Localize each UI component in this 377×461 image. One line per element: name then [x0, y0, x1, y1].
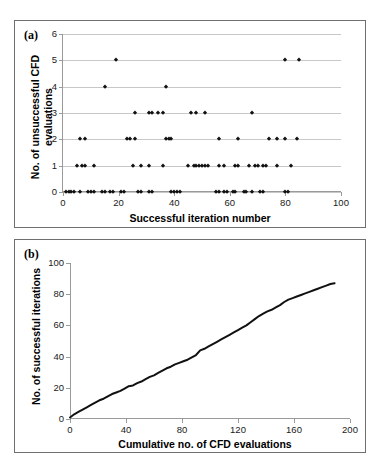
panel-a-x-tick-label: 100: [326, 197, 356, 208]
panel-a-x-tick: [341, 192, 342, 196]
scatter-point: [163, 84, 168, 89]
panel-a-x-tick-label: 80: [270, 197, 300, 208]
scatter-point: [102, 84, 107, 89]
scatter-point: [222, 163, 227, 168]
panel-b-x-tick: [238, 419, 239, 423]
panel-b-y-axis-title: No. of successful iterations: [30, 257, 43, 417]
panel-b-x-tick: [70, 419, 71, 423]
panel-b-x-axis-title: Cumulative no. of CFD evaluations: [55, 438, 355, 450]
panel-b-y-tick: [66, 294, 70, 295]
panel-b-x-tick-label: 40: [111, 424, 141, 435]
scatter-point: [283, 58, 288, 63]
panel-b-y-tick-label: 40: [44, 351, 64, 362]
scatter-point: [77, 137, 82, 142]
panel-b-y-tick-label: 20: [44, 382, 64, 393]
scatter-point: [283, 137, 288, 142]
panel-a-y-tick: [59, 166, 63, 167]
panel-a-y-tick-label: 6: [41, 28, 57, 39]
panel-a-y-tick: [59, 113, 63, 114]
panel-a-y-tick: [59, 87, 63, 88]
panel-b-x-tick: [294, 419, 295, 423]
panel-b-y-tick: [66, 325, 70, 326]
figure-container: (a) No. of unsuccessful CFD evaluations …: [0, 0, 377, 461]
scatter-point: [216, 137, 221, 142]
panel-b-x-tick: [182, 419, 183, 423]
scatter-point: [236, 163, 241, 168]
scatter-point: [133, 137, 138, 142]
gridline-y: [63, 34, 341, 35]
scatter-point: [150, 111, 155, 116]
panel-a-y-tick-label: 3: [41, 107, 57, 118]
scatter-point: [194, 111, 199, 116]
panel-a-x-axis-title: Successful iteration number: [60, 212, 340, 224]
scatter-point: [147, 163, 152, 168]
panel-b-y-tick: [66, 388, 70, 389]
scatter-point: [275, 163, 280, 168]
panel-a-x-tick-label: 20: [104, 197, 134, 208]
panel-a-y-tick: [59, 34, 63, 35]
panel-b-x-tick: [350, 419, 351, 423]
panel-b-x-tick-label: 200: [335, 424, 365, 435]
panel-a-y-tick-label: 2: [41, 133, 57, 144]
panel-b-y-tick: [66, 263, 70, 264]
panel-a-y-tick-label: 0: [41, 186, 57, 197]
scatter-point: [250, 111, 255, 116]
panel-b-y-tick-label: 100: [44, 257, 64, 268]
scatter-point: [113, 58, 118, 63]
scatter-point: [294, 137, 299, 142]
panel-a-x-tick-label: 0: [48, 197, 78, 208]
panel-a-x-tick-label: 60: [215, 197, 245, 208]
cumulative-line: [70, 283, 335, 417]
scatter-point: [161, 163, 166, 168]
panel-a-y-tick-label: 5: [41, 54, 57, 65]
scatter-point: [133, 111, 138, 116]
panel-a-x-tick-label: 40: [159, 197, 189, 208]
scatter-point: [266, 137, 271, 142]
panel-b-x-tick-label: 120: [223, 424, 253, 435]
scatter-point: [202, 111, 207, 116]
scatter-point: [297, 58, 302, 63]
panel-a-y-tick: [59, 60, 63, 61]
scatter-point: [91, 163, 96, 168]
scatter-point: [127, 137, 132, 142]
panel-b-x-tick-label: 0: [55, 424, 85, 435]
gridline-y: [63, 139, 341, 140]
scatter-point: [186, 163, 191, 168]
panel-b-x-tick: [126, 419, 127, 423]
panel-b-x-tick-label: 160: [279, 424, 309, 435]
panel-b-y-tick-label: 80: [44, 288, 64, 299]
scatter-point: [264, 163, 269, 168]
scatter-point: [83, 137, 88, 142]
panel-b-y-tick-label: 0: [44, 413, 64, 424]
panel-b-y-tick: [66, 357, 70, 358]
panel-b-line-series: [70, 263, 350, 419]
panel-b-y-tick-label: 60: [44, 319, 64, 330]
scatter-point: [161, 111, 166, 116]
scatter-point: [83, 163, 88, 168]
panel-a-plot-area: 0123456020406080100: [63, 34, 341, 192]
panel-a-y-tick: [59, 139, 63, 140]
scatter-point: [247, 163, 252, 168]
panel-a-tag: (a): [24, 28, 38, 43]
scatter-point: [155, 111, 160, 116]
scatter-point: [289, 163, 294, 168]
panel-a-y-tick-label: 4: [41, 81, 57, 92]
scatter-point: [188, 111, 193, 116]
panel-b-plot-area: 02040608010004080120160200: [70, 263, 350, 419]
panel-a-y-tick-label: 1: [41, 160, 57, 171]
panel-b-x-tick-label: 80: [167, 424, 197, 435]
scatter-point: [138, 163, 143, 168]
scatter-point: [130, 163, 135, 168]
scatter-point: [236, 137, 241, 142]
scatter-point: [275, 137, 280, 142]
